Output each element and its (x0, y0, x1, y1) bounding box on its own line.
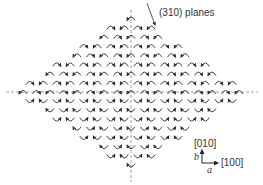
curved-arrow-icon (80, 118, 88, 122)
curved-arrow-icon (60, 108, 68, 112)
curved-arrow-icon (114, 72, 122, 76)
curved-arrow-icon (188, 81, 196, 85)
curved-arrow-icon (154, 145, 162, 149)
curved-arrow-icon (141, 35, 149, 39)
curved-arrow-icon (107, 63, 115, 67)
curved-arrow-icon (114, 35, 122, 39)
curved-arrow-icon (201, 81, 209, 85)
curved-arrow-icon (93, 81, 101, 85)
curved-arrow-icon (53, 118, 61, 122)
curved-arrow-icon (26, 99, 34, 103)
curved-arrow-icon (80, 81, 88, 85)
curved-arrow-icon (201, 118, 209, 122)
curved-arrow-icon (134, 45, 142, 49)
curved-arrow-icon (66, 118, 74, 122)
curved-arrow-icon (107, 99, 115, 103)
curved-arrow-icon (73, 72, 81, 76)
curved-arrow-icon (53, 63, 61, 67)
curved-arrow-icon (188, 63, 196, 67)
curved-arrow-icon (107, 45, 115, 49)
curved-arrow-icon (147, 81, 155, 85)
curved-arrow-icon (66, 99, 74, 103)
curved-arrow-icon (53, 81, 61, 85)
curved-arrow-icon (26, 81, 34, 85)
curved-arrow-icon (154, 127, 162, 131)
curved-arrow-icon (188, 99, 196, 103)
curved-arrow-icon (120, 136, 128, 140)
curved-arrow-icon (141, 91, 149, 95)
curved-arrow-icon (93, 136, 101, 140)
curved-arrow-icon (39, 99, 47, 103)
curved-arrow-icon (93, 45, 101, 49)
curved-arrow-icon (66, 63, 74, 67)
curved-arrow-icon (107, 81, 115, 85)
curved-arrow-icon (141, 72, 149, 76)
curved-arrow-icon (181, 54, 189, 58)
axis-a-label: a (207, 165, 212, 175)
curved-arrow-icon (73, 54, 81, 58)
curved-arrow-icon (168, 72, 176, 76)
curved-arrow-icon (100, 72, 108, 76)
curved-arrow-icon (134, 118, 142, 122)
curved-arrow-icon (46, 108, 54, 112)
curved-arrow-icon (195, 72, 203, 76)
curved-arrow-icon (93, 99, 101, 103)
curved-arrow-icon (80, 136, 88, 140)
curved-arrow-icon (100, 108, 108, 112)
curved-arrow-icon (161, 99, 169, 103)
curved-arrow-icon (66, 81, 74, 85)
curved-arrow-icon (60, 72, 68, 76)
curved-arrow-icon (181, 91, 189, 95)
curved-arrow-icon (80, 45, 88, 49)
planes-label: (310) planes (159, 8, 215, 18)
curved-arrow-icon (174, 136, 182, 140)
curved-arrow-icon (107, 154, 115, 158)
curved-arrow-icon (161, 81, 169, 85)
curved-arrow-icon (154, 54, 162, 58)
curved-arrow-icon (154, 35, 162, 39)
curved-arrow-icon (134, 99, 142, 103)
curved-arrow-icon (134, 26, 142, 30)
curved-arrow-icon (147, 26, 155, 30)
curved-arrow-icon (174, 99, 182, 103)
curved-arrow-icon (174, 118, 182, 122)
curved-arrow-icon (93, 118, 101, 122)
curved-arrow-icon (147, 63, 155, 67)
curved-arrow-icon (181, 72, 189, 76)
curved-arrow-icon (161, 136, 169, 140)
curved-arrow-icon (181, 127, 189, 131)
curved-arrow-icon (147, 45, 155, 49)
curved-arrow-icon (168, 108, 176, 112)
curved-arrow-icon (154, 72, 162, 76)
curved-arrow-icon (120, 118, 128, 122)
curved-arrow-icon (120, 63, 128, 67)
curved-arrow-icon (174, 45, 182, 49)
curved-arrow-icon (120, 45, 128, 49)
curved-arrow-icon (168, 54, 176, 58)
curved-arrow-icon (87, 72, 95, 76)
curved-arrow-icon (87, 54, 95, 58)
axis-b-label: b (194, 152, 199, 162)
curved-arrow-icon (174, 63, 182, 67)
curved-arrow-icon (114, 108, 122, 112)
curved-arrow-icon (73, 108, 81, 112)
curved-arrow-icon (114, 145, 122, 149)
curved-arrow-icon (147, 99, 155, 103)
curved-arrow-icon (141, 127, 149, 131)
curved-arrow-icon (201, 99, 209, 103)
curved-arrow-icon (87, 91, 95, 95)
curved-arrow-icon (107, 118, 115, 122)
curved-arrow-icon (161, 45, 169, 49)
curved-arrow-icon (228, 81, 236, 85)
planes-pointer-line (147, 3, 155, 25)
curved-arrow-icon (188, 118, 196, 122)
curved-arrow-icon (120, 99, 128, 103)
curved-arrow-icon (147, 118, 155, 122)
curved-arrow-icon (174, 81, 182, 85)
curved-arrow-icon (80, 63, 88, 67)
curved-arrow-icon (87, 108, 95, 112)
curved-arrow-icon (114, 54, 122, 58)
curved-arrow-icon (215, 81, 223, 85)
direction-100-label: [100] (221, 158, 243, 168)
curved-arrow-icon (39, 81, 47, 85)
